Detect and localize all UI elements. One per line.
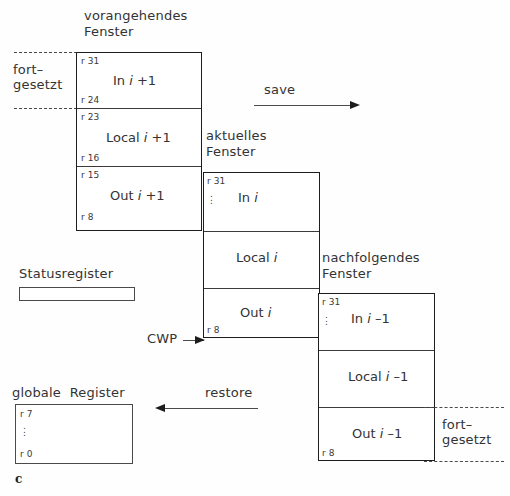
next-window-local-label: Local i –1 [348,369,408,384]
save-arrow-line [254,105,352,106]
global-registers-reg-bottom: r 0 [20,449,33,459]
previous-window-out-reg-top: r 15 [81,170,99,180]
previous-window-in-reg-bottom: r 24 [81,95,99,105]
previous-window-out-label: Out i +1 [110,188,165,203]
previous-window-in-reg-top: r 31 [81,56,99,66]
current-window-caption-line1: aktuelles [206,128,267,143]
current-window-out-label: Out i [240,305,271,320]
previous-window-local-reg-top: r 23 [81,112,99,122]
next-window-in-label: In i –1 [351,311,390,326]
previous-window-in-label: In i +1 [113,73,156,88]
previous-window-caption-line2: Fenster [84,24,134,39]
continuation-right-label-line1: fort– [442,417,472,432]
current-window-out-reg-bottom: r 8 [207,325,220,335]
continuation-right-label-line2: gesetzt [442,432,491,447]
current-window-caption-line2: Fenster [206,144,256,159]
restore-arrow-line [158,408,258,409]
current-window-in-label: In i [238,190,258,205]
next-window-divider-local-out [319,407,434,408]
cwp-arrow-head-icon [195,336,205,344]
continuation-left-label-line2: gesetzt [13,77,62,92]
current-window-divider-local-out [204,288,319,289]
previous-window-caption-line1: vorangehendes [84,8,188,23]
continuation-right-dash-top [424,407,504,408]
previous-window-divider-in-local [77,108,201,109]
status-register-label: Statusregister [19,266,113,281]
current-window-in-vertical-dots-icon: ... [210,193,213,204]
global-registers-vertical-dots-icon: ... [23,425,26,436]
continuation-right-dash-bottom [424,461,504,462]
next-window-out-reg-bottom: r 8 [322,448,335,458]
previous-window-local-label: Local i +1 [106,130,171,145]
current-window-local-label: Local i [236,250,277,265]
restore-arrow-head-icon [155,404,165,412]
previous-window-divider-local-out [77,166,201,167]
global-registers-reg-top: r 7 [20,409,33,419]
save-arrow-label: save [264,82,295,97]
save-arrow-head-icon [350,101,360,109]
figure-sublabel: c [15,472,22,486]
current-window-divider-in-local [204,231,319,232]
figure-canvas: fort– gesetzt vorangehendes Fenster r 31… [0,0,510,496]
next-window-in-vertical-dots-icon: ... [325,314,328,325]
next-window-in-reg-top: r 31 [322,297,340,307]
restore-arrow-label: restore [205,385,252,400]
cwp-arrow-label: CWP [147,331,177,346]
continuation-left-label-line1: fort– [13,62,43,77]
previous-window-local-reg-bottom: r 16 [81,153,99,163]
next-window-caption-line2: Fenster [322,266,372,281]
status-register-box [19,287,135,301]
next-window-caption-line1: nachfolgendes [322,250,420,265]
next-window-out-label: Out i –1 [352,426,402,441]
global-registers-label: globale Register [12,385,125,400]
previous-window-out-reg-bottom: r 8 [81,212,94,222]
current-window-in-reg-top: r 31 [207,176,225,186]
next-window-divider-in-local [319,350,434,351]
